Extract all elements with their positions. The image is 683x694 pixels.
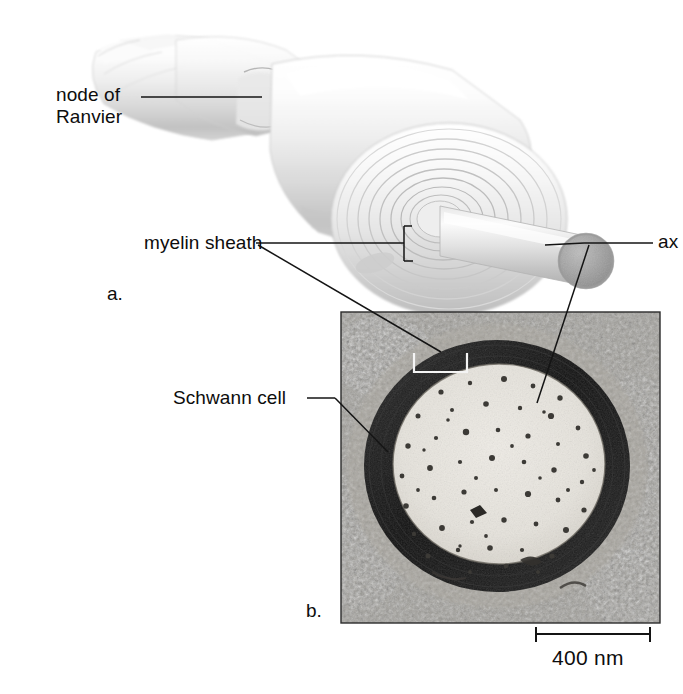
label-myelin-sheath: myelin sheath (144, 232, 263, 254)
leader-schwann-cell-micrograph (335, 398, 388, 452)
label-node-of-ranvier-line2: Ranvier (56, 106, 122, 127)
label-schwann-cell: Schwann cell (173, 387, 286, 409)
label-axon: ax (658, 231, 678, 253)
panel-label-b: b. (306, 600, 322, 622)
scale-bar (536, 627, 650, 642)
scale-bar-label: 400 nm (552, 646, 624, 670)
leader-myelin-sheath-micrograph (258, 245, 441, 352)
label-node-of-ranvier-line1: node of (56, 84, 120, 105)
label-node-of-ranvier: node ofRanvier (56, 84, 122, 128)
panel-label-a: a. (107, 283, 123, 305)
bracket-myelin-illustration (404, 226, 413, 261)
leader-axon-illustration (545, 243, 584, 245)
leader-axon-micrograph (537, 245, 589, 403)
figure-myelinated-nerve-fiber: node ofRanvier myelin sheath Schwann cel… (0, 0, 683, 694)
